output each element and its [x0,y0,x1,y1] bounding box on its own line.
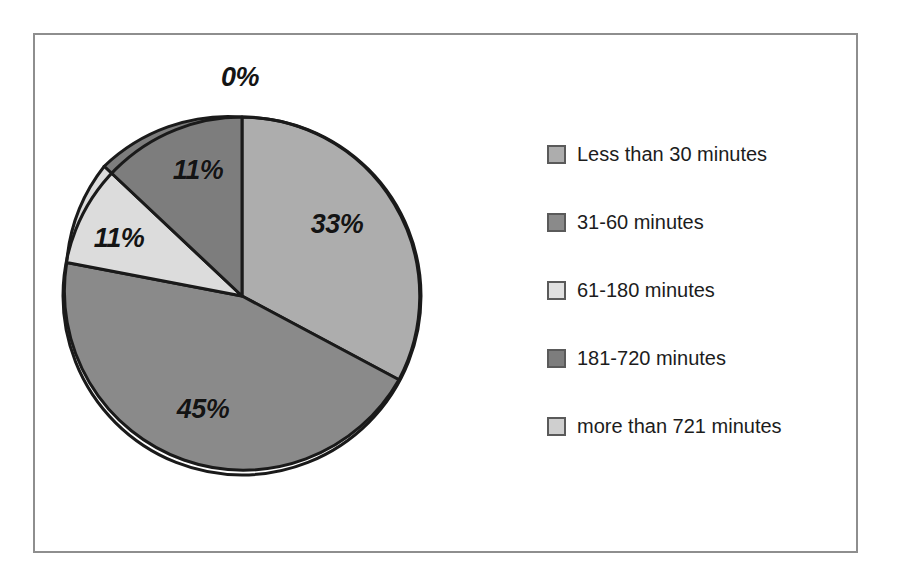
pie-chart-graphic [60,114,424,478]
chart-frame: 0% 33% 45% 11% 11% Less than 30 minutes … [33,33,858,553]
pie-label-11-percent-left: 11% [94,223,145,254]
legend-swatch-icon [547,213,566,232]
pie-label-zero: 0% [221,62,259,93]
legend-item-label: 181-720 minutes [577,348,726,368]
legend-item-label: Less than 30 minutes [577,144,767,164]
legend-swatch-icon [547,281,566,300]
pie-chart-plot-area: 0% 33% 45% 11% 11% Less than 30 minutes … [35,35,856,551]
pie-label-33-percent: 33% [311,209,364,240]
pie-slices [64,116,419,470]
legend-item-61-180-minutes[interactable]: 61-180 minutes [547,256,847,324]
pie-label-11-percent-top: 11% [173,155,224,186]
legend-item-label: 61-180 minutes [577,280,715,300]
legend-swatch-icon [547,349,566,368]
legend-item-label: 31-60 minutes [577,212,704,232]
legend-swatch-icon [547,417,566,436]
chart-legend: Less than 30 minutes 31-60 minutes 61-18… [547,120,847,460]
legend-item-more-than-721-minutes[interactable]: more than 721 minutes [547,392,847,460]
legend-item-label: more than 721 minutes [577,416,782,436]
legend-item-31-60-minutes[interactable]: 31-60 minutes [547,188,847,256]
pie-label-45-percent: 45% [177,394,230,425]
legend-item-less-than-30-minutes[interactable]: Less than 30 minutes [547,120,847,188]
legend-swatch-icon [547,145,566,164]
legend-item-181-720-minutes[interactable]: 181-720 minutes [547,324,847,392]
